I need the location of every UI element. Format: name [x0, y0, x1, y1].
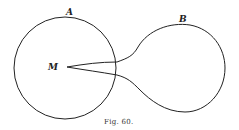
figure-diagram: A B M Fig. 60.: [0, 0, 239, 130]
line-m-lower: [67, 67, 117, 75]
figure-caption: Fig. 60.: [104, 118, 134, 126]
bulb-b-outline: [117, 24, 225, 112]
label-m: M: [47, 62, 59, 72]
circle-a: [14, 17, 116, 119]
label-b: B: [178, 14, 187, 24]
label-a: A: [65, 7, 73, 17]
line-m-upper: [67, 62, 117, 67]
